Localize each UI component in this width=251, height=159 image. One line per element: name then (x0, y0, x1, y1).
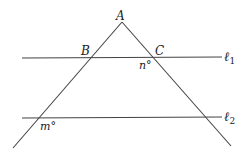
label-line-l1: ℓ1 (224, 49, 235, 66)
label-line-l2: ℓ2 (224, 109, 235, 126)
line-l1 (22, 57, 222, 58)
side-AC-extended (122, 22, 231, 146)
line-l2 (22, 117, 222, 118)
label-point-C: C (155, 44, 164, 58)
geometry-diagram: A B C n° m° ℓ1 ℓ2 (0, 0, 251, 159)
label-angle-m: m° (40, 120, 56, 133)
label-point-B: B (80, 44, 90, 58)
label-angle-n: n° (139, 59, 152, 72)
side-AB-extended (13, 22, 122, 148)
label-point-A: A (115, 9, 125, 23)
